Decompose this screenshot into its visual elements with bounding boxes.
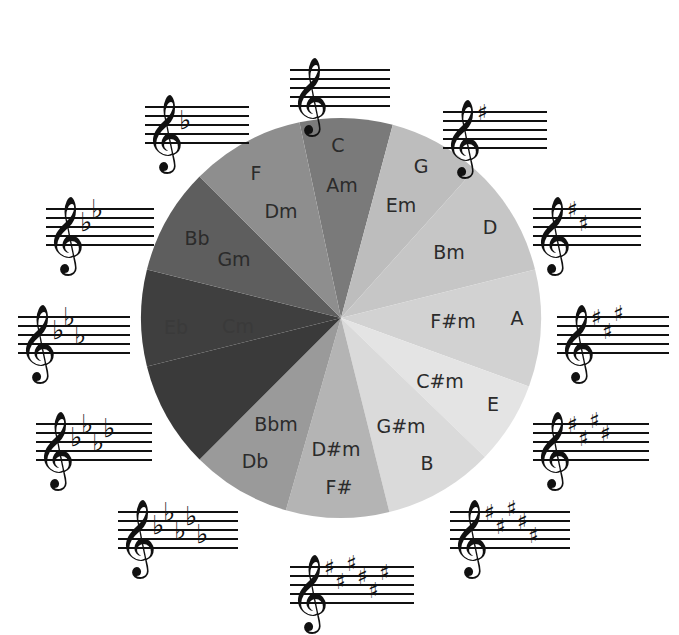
minor-key-label: Bm <box>433 241 465 263</box>
minor-key-label: Cm <box>222 315 254 337</box>
major-key-label: E <box>487 393 499 415</box>
key-signature-g: 𝄞♯ <box>443 99 547 179</box>
key-signature-db: 𝄞♭♭♭♭♭ <box>118 497 238 580</box>
major-key-label: Db <box>242 450 269 472</box>
sharp-icon: ♯ <box>484 500 495 525</box>
key-signature-b: 𝄞♯♯♯♯♯ <box>450 496 570 580</box>
key-signature-ab: 𝄞♭♭♭♭ <box>36 409 152 492</box>
minor-key-label: Bbm <box>254 413 298 435</box>
sharp-icon: ♯ <box>346 551 357 576</box>
sharp-icon: ♯ <box>591 305 602 330</box>
minor-key-label: G#m <box>376 415 425 437</box>
flat-icon: ♭ <box>103 413 115 443</box>
sharp-icon: ♯ <box>517 509 528 534</box>
minor-key-label: Fm <box>215 368 244 390</box>
minor-key-label: Em <box>386 194 417 216</box>
sharp-icon: ♯ <box>578 211 589 236</box>
major-key-label: F <box>251 162 262 184</box>
key-signature-e: 𝄞♯♯♯♯ <box>533 408 649 492</box>
sharp-icon: ♯ <box>506 496 517 521</box>
sharp-icon: ♯ <box>578 426 589 451</box>
sharp-icon: ♯ <box>368 578 379 603</box>
major-key-label: B <box>420 452 433 474</box>
sharp-icon: ♯ <box>567 412 578 437</box>
treble-clef-icon: 𝄞 <box>290 57 329 137</box>
sharp-icon: ♯ <box>602 319 613 344</box>
sharp-icon: ♯ <box>600 421 611 446</box>
major-key-label: Ab <box>186 386 211 408</box>
circle-of-fifths-diagram: CAmGEmDBmAF#mEC#mBG#mF#D#mDbBbmAbFmEbCmB… <box>0 0 679 635</box>
minor-key-label: Gm <box>217 248 250 270</box>
minor-key-label: Dm <box>264 200 297 222</box>
key-signature-eb: 𝄞♭♭♭ <box>18 302 130 385</box>
key-signature-bb: 𝄞♭♭ <box>46 194 154 277</box>
flat-icon: ♭ <box>74 320 86 350</box>
minor-key-label: Am <box>326 174 358 196</box>
sharp-icon: ♯ <box>589 408 600 433</box>
sharp-icon: ♯ <box>528 523 539 548</box>
sharp-icon: ♯ <box>477 100 488 125</box>
major-key-label: C <box>331 134 344 156</box>
major-key-label: Eb <box>164 316 188 338</box>
flat-icon: ♭ <box>196 519 208 549</box>
major-key-label: Bb <box>184 227 209 249</box>
flat-icon: ♭ <box>91 194 103 224</box>
key-signature-d: 𝄞♯♯ <box>533 196 641 276</box>
minor-key-label: C#m <box>416 370 464 392</box>
major-key-label: A <box>511 307 524 329</box>
sharp-icon: ♯ <box>495 514 506 539</box>
sharp-icon: ♯ <box>613 301 624 326</box>
minor-key-label: F#m <box>430 310 475 332</box>
minor-key-label: D#m <box>311 438 360 460</box>
major-key-label: F# <box>326 476 353 498</box>
sharp-icon: ♯ <box>357 564 368 589</box>
sharp-icon: ♯ <box>379 560 390 585</box>
major-key-label: D <box>483 216 498 238</box>
sharp-icon: ♯ <box>324 555 335 580</box>
key-signature-fsharp: 𝄞♯♯♯♯♯♯ <box>290 551 414 635</box>
key-signature-a: 𝄞♯♯♯ <box>557 301 669 385</box>
major-key-label: G <box>414 155 429 177</box>
flat-icon: ♭ <box>179 105 191 135</box>
sharp-icon: ♯ <box>335 569 346 594</box>
sharp-icon: ♯ <box>567 197 578 222</box>
